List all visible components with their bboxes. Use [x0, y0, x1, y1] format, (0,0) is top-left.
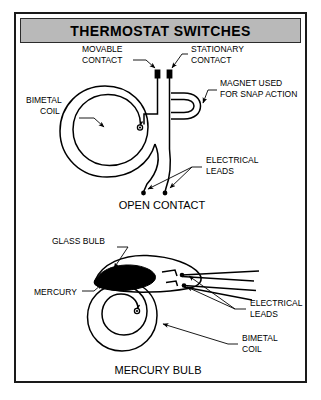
- label-stationary-contact-line2: CONTACT: [191, 55, 231, 65]
- label-electrical-leads-top-line2: LEADS: [206, 166, 234, 176]
- snap-action-magnet: [171, 93, 201, 119]
- bimetal-coil-bottom: [88, 285, 158, 351]
- label-electrical-leads-bottom-line2: LEADS: [250, 309, 278, 319]
- caption-open-contact: OPEN CONTACT: [119, 199, 206, 211]
- label-magnet-line2: FOR SNAP ACTION: [220, 89, 297, 99]
- label-movable-contact-line2: CONTACT: [82, 55, 122, 65]
- label-electrical-leads-top-line1: ELECTRICAL: [206, 155, 259, 165]
- label-magnet-line1: MAGNET USED: [220, 78, 282, 88]
- label-bimetal-coil-top-line1: BIMETAL: [26, 95, 62, 105]
- label-glass-bulb: GLASS BULB: [52, 236, 105, 246]
- label-bimetal-coil-bottom-line1: BIMETAL: [242, 333, 278, 343]
- label-bimetal-coil-bottom-line2: COIL: [242, 344, 262, 354]
- diagram-page: THERMOSTAT SWITCHES: [0, 0, 321, 400]
- thermostat-switch-illustration: MOVABLE CONTACT STATIONARY CONTACT MAGNE…: [16, 14, 309, 385]
- label-electrical-leads-bottom-line1: ELECTRICAL: [250, 298, 303, 308]
- label-stationary-contact-line1: STATIONARY: [191, 44, 244, 54]
- label-movable-contact-line1: MOVABLE: [82, 44, 123, 54]
- illustration-frame: THERMOSTAT SWITCHES: [14, 12, 307, 383]
- electrical-leads-top: [141, 144, 170, 195]
- stationary-contact-blade: [167, 70, 173, 150]
- label-bimetal-coil-top-line2: COIL: [40, 106, 60, 116]
- caption-mercury-bulb: MERCURY BULB: [114, 364, 201, 376]
- bimetal-coil-top: [60, 86, 155, 177]
- label-mercury: MERCURY: [34, 287, 77, 297]
